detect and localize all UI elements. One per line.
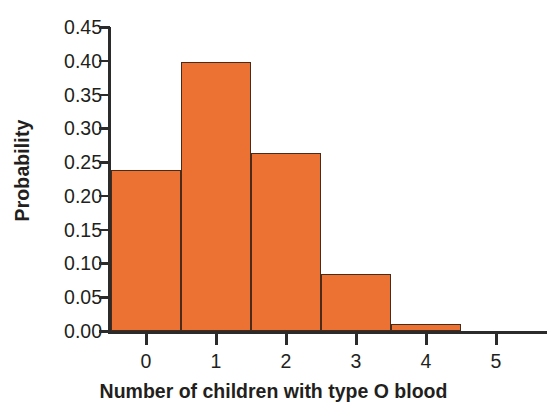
x-axis-tick-mark <box>425 334 428 345</box>
y-axis-tick-label: 0.25 <box>64 151 102 174</box>
x-axis-tick-label: 2 <box>281 350 292 373</box>
probability-histogram-chart: Probability 0.000.050.100.150.200.250.30… <box>0 0 547 411</box>
y-axis-tick-mark <box>99 26 110 29</box>
y-axis-label-container: Probability <box>0 0 46 340</box>
bar <box>111 170 181 331</box>
x-axis-tick-mark <box>495 334 498 345</box>
y-axis-tick-label: 0.15 <box>64 218 102 241</box>
x-axis-tick-mark <box>285 334 288 345</box>
y-axis-tick-mark <box>99 195 110 198</box>
y-axis-tick-label: 0.20 <box>64 184 102 207</box>
x-axis-tick-label: 0 <box>141 350 152 373</box>
y-axis-tick-mark <box>99 330 110 333</box>
y-axis-tick-mark <box>99 161 110 164</box>
y-axis-tick-label: 0.30 <box>64 117 102 140</box>
bar <box>181 62 251 331</box>
y-axis-tick-label: 0.45 <box>64 16 102 39</box>
y-axis-tick-label: 0.35 <box>64 83 102 106</box>
x-axis-tick-label: 1 <box>211 350 222 373</box>
y-axis-label: Probability <box>12 119 35 221</box>
y-axis-tick-mark <box>99 127 110 130</box>
x-axis-tick-mark <box>145 334 148 345</box>
y-axis-tick-labels: 0.000.050.100.150.200.250.300.350.400.45 <box>46 0 108 340</box>
x-axis-tick-label: 5 <box>491 350 502 373</box>
y-axis-tick-mark <box>99 296 110 299</box>
x-axis-tick-label: 3 <box>351 350 362 373</box>
y-axis-tick-mark <box>99 262 110 265</box>
y-axis-tick-mark <box>99 60 110 63</box>
x-axis-tick-mark <box>215 334 218 345</box>
bar <box>321 274 391 331</box>
y-axis-tick-label: 0.10 <box>64 252 102 275</box>
y-axis-tick-label: 0.05 <box>64 286 102 309</box>
y-axis-tick-label: 0.40 <box>64 49 102 72</box>
y-axis-tick-label: 0.00 <box>64 320 102 343</box>
plot-area: 012345 <box>108 0 547 411</box>
x-axis-label: Number of children with type O blood <box>0 380 547 403</box>
bar <box>251 153 321 331</box>
bar <box>391 324 461 331</box>
y-axis-tick-mark <box>99 229 110 232</box>
x-axis-line <box>111 331 547 334</box>
x-axis-tick-label: 4 <box>421 350 432 373</box>
y-axis-tick-mark <box>99 94 110 97</box>
x-axis-tick-mark <box>355 334 358 345</box>
